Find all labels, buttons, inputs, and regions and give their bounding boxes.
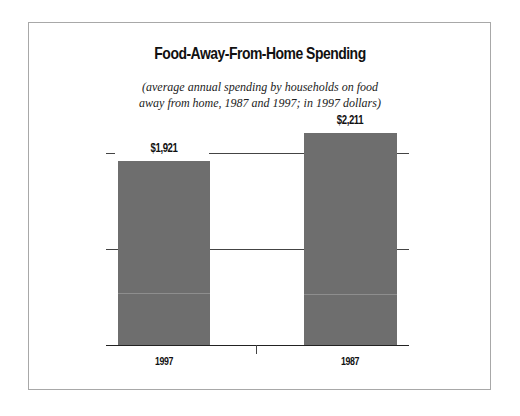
gridline-top-right-tick <box>396 153 409 154</box>
gridline-mid-middle <box>209 249 305 250</box>
x-axis-baseline <box>106 345 409 346</box>
category-label-1987: 1987 <box>313 355 387 367</box>
gridline-top-middle <box>209 153 305 154</box>
bar-gridline-overlay <box>304 294 397 295</box>
bar-1997 <box>118 161 210 345</box>
bar-gridline-overlay <box>118 293 210 294</box>
category-label-1997: 1997 <box>127 355 201 367</box>
value-label-1987: $2,211 <box>313 113 387 127</box>
gridline-mid-left-tick <box>106 249 118 250</box>
x-axis-center-tick <box>256 345 257 354</box>
bar-1987 <box>304 133 397 345</box>
plot-area: $1,921 $2,211 1997 1987 <box>0 0 520 416</box>
gridline-mid-right-tick <box>396 249 409 250</box>
value-label-1997: $1,921 <box>127 141 201 155</box>
gridline-top-left-tick <box>106 153 115 154</box>
